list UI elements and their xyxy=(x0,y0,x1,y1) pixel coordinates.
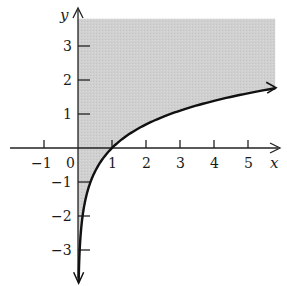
y-tick-label: −2 xyxy=(51,208,72,224)
x-tick-label: −1 xyxy=(31,155,52,171)
log-graph: −112345 321−1−2−3 0 x y xyxy=(0,0,287,286)
y-tick-label: 1 xyxy=(63,106,72,122)
shaded-region xyxy=(78,19,275,283)
x-tick-label: 5 xyxy=(244,155,253,171)
x-tick-label: 1 xyxy=(108,155,117,171)
x-ticks: −112345 xyxy=(31,140,253,171)
x-tick-label: 4 xyxy=(210,155,219,171)
x-tick-label: 2 xyxy=(142,155,151,171)
y-tick-label: 3 xyxy=(63,38,72,54)
y-tick-label: −1 xyxy=(51,174,72,190)
origin-label: 0 xyxy=(66,155,75,171)
x-axis xyxy=(10,143,280,153)
y-tick-label: −3 xyxy=(51,242,72,258)
x-axis-label: x xyxy=(270,154,279,172)
x-tick-label: 3 xyxy=(176,155,185,171)
y-tick-label: 2 xyxy=(63,72,72,88)
y-axis-label: y xyxy=(59,6,69,24)
